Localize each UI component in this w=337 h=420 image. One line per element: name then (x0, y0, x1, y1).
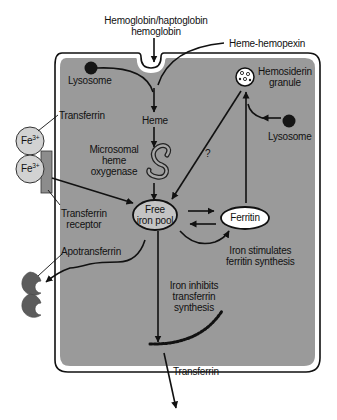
apotransferrin-label: Apotransferrin (61, 246, 121, 257)
transferrin-top-label: Transferrin (59, 110, 105, 121)
lysosome-right-icon (283, 115, 296, 128)
lysosome-right-label: Lysosome (268, 131, 312, 142)
transferrin-out-label: Transferrin (173, 366, 219, 377)
fe-bottom-label: Fe3+ (21, 163, 39, 174)
lysosome-left-icon (85, 62, 98, 75)
hemosiderin-granule-icon (236, 68, 254, 86)
stimulates-label: Iron stimulates ferritin synthesis (226, 245, 295, 267)
hemosiderin-label: Hemosiderin granule (258, 66, 312, 88)
inhibits-label: Iron inhibits transferrin synthesis (166, 280, 222, 313)
question-mark-label: ? (205, 148, 210, 159)
free-iron-pool-label: Free iron pool (133, 204, 177, 226)
transferrin-receptor-label: Transferrin receptor (61, 208, 107, 230)
oxygenase-label: Microsomal heme oxygenase (86, 144, 142, 177)
heme-hemopexin-label: Heme-hemopexin (229, 38, 305, 49)
apotransferrin-icon (22, 272, 41, 317)
fe-top-label: Fe3+ (21, 135, 39, 146)
hemoglobin-label: Hemoglobin/haptoglobin hemoglobin (100, 15, 212, 37)
heme-label: Heme (142, 115, 168, 126)
ferritin-label: Ferritin (221, 212, 269, 223)
lysosome-left-label: Lysosome (68, 75, 112, 86)
